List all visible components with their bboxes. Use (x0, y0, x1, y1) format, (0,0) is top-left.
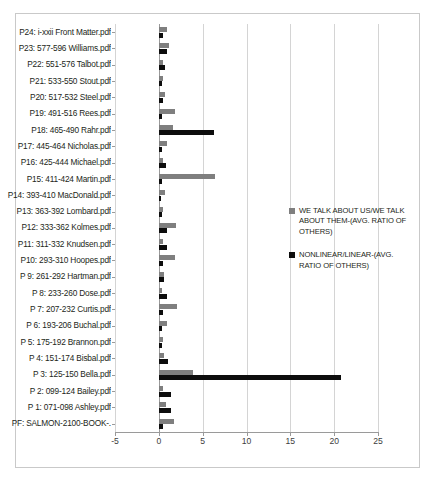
bar (159, 27, 167, 32)
bar (159, 92, 165, 97)
bar (159, 424, 163, 429)
x-tick-label: 25 (373, 436, 383, 447)
legend-swatch-icon (289, 252, 295, 258)
bar (159, 353, 164, 358)
y-axis-category-label: P11: 311-332 Knudsen.pdf (0, 240, 111, 249)
y-axis-category-label: P13: 363-392 Lombard.pdf (0, 207, 111, 216)
x-tick-mark (203, 432, 204, 436)
y-axis-category-label: P15: 411-424 Martin.pdf (0, 175, 111, 184)
y-axis-category-row: P 1: 071-098 Ashley.pdf (0, 399, 111, 415)
bar (159, 375, 341, 380)
y-axis-category-label: P 9: 261-292 Hartman.pdf (0, 272, 111, 281)
y-axis-category-label: P12: 333-362 Kolmes.pdf (0, 223, 111, 232)
y-axis-category-row: P 5: 175-192 Brannon.pdf (0, 334, 111, 350)
y-axis-category-label: P21: 533-550 Stout.pdf (0, 77, 111, 86)
y-axis-category-labels: P24: i-xxii Front Matter.pdfP23: 577-596… (0, 24, 113, 432)
bar-group (115, 155, 378, 171)
y-axis-category-row: P15: 411-424 Martin.pdf (0, 171, 111, 187)
y-axis-category-row: P 4: 151-174 Bisbal.pdf (0, 350, 111, 366)
bar (159, 109, 176, 114)
y-axis-category-label: P22: 551-576 Talbot.pdf (0, 60, 111, 69)
y-axis-category-label: P24: i-xxii Front Matter.pdf (0, 28, 111, 37)
x-tick-mark (159, 432, 160, 436)
x-axis-tick-labels: -50510152025 (115, 436, 378, 450)
bar-group (115, 57, 378, 73)
bar (159, 272, 164, 277)
y-axis-category-row: P16: 425-444 Michael.pdf (0, 155, 111, 171)
bar (159, 392, 171, 397)
bar (159, 190, 165, 195)
x-tick-mark (334, 432, 335, 436)
bar-group (115, 171, 378, 187)
bar-group (115, 122, 378, 138)
bar (159, 408, 171, 413)
bar (159, 321, 167, 326)
y-axis-category-label: P17: 445-464 Nicholas.pdf (0, 142, 111, 151)
bar-group (115, 106, 378, 122)
bar (159, 239, 163, 244)
y-axis-category-row: P24: i-xxii Front Matter.pdf (0, 24, 111, 40)
bar (159, 130, 214, 135)
y-axis-category-row: P17: 445-464 Nicholas.pdf (0, 138, 111, 154)
bar (159, 277, 164, 282)
x-tick-mark (290, 432, 291, 436)
y-axis-category-label: P10: 293-310 Hoopes.pdf (0, 256, 111, 265)
y-axis-category-row: P14: 393-410 MacDonald.pdf (0, 187, 111, 203)
bar-group (115, 138, 378, 154)
y-axis-category-row: P 7: 207-232 Curtis.pdf (0, 301, 111, 317)
y-axis-category-row: P 3: 125-150 Bella.pdf (0, 367, 111, 383)
y-axis-category-row: P22: 551-576 Talbot.pdf (0, 57, 111, 73)
bar (159, 114, 163, 119)
bar (159, 310, 163, 315)
y-axis-category-label: P 4: 151-174 Bisbal.pdf (0, 354, 111, 363)
bar-group (115, 399, 378, 415)
y-axis-category-row: P12: 333-362 Kolmes.pdf (0, 220, 111, 236)
bar (159, 212, 163, 217)
legend-label: WE TALK ABOUT US/WE TALK ABOUT THEM-(AVG… (299, 206, 415, 237)
bar (159, 337, 163, 342)
bar (159, 370, 193, 375)
bar (159, 76, 163, 81)
bar (159, 304, 177, 309)
bar (159, 125, 173, 130)
y-axis-category-row: PF: SALMON-2100-BOOK-. (0, 416, 111, 432)
bar-group (115, 383, 378, 399)
bar-group (115, 285, 378, 301)
bar-group (115, 350, 378, 366)
bar (159, 359, 169, 364)
x-tick-label: 15 (286, 436, 296, 447)
chart-legend: WE TALK ABOUT US/WE TALK ABOUT THEM-(AVG… (289, 206, 415, 284)
x-tick-label: 5 (200, 436, 205, 447)
chart-frame: P24: i-xxii Front Matter.pdfP23: 577-596… (15, 13, 420, 468)
bar (159, 255, 176, 260)
y-axis-category-row: P23: 577-596 Williams.pdf (0, 40, 111, 56)
bar (159, 294, 167, 299)
bar (159, 223, 177, 228)
bar (159, 261, 163, 266)
y-axis-category-row: P21: 533-550 Stout.pdf (0, 73, 111, 89)
bar (159, 60, 163, 65)
bar-group (115, 73, 378, 89)
x-tick-label: 0 (156, 436, 161, 447)
bar (159, 49, 167, 54)
y-axis-category-row: P20: 517-532 Steel.pdf (0, 89, 111, 105)
bar (159, 141, 167, 146)
legend-entry: WE TALK ABOUT US/WE TALK ABOUT THEM-(AVG… (289, 206, 415, 237)
bar (159, 163, 166, 168)
y-axis-category-row: P 8: 233-260 Dose.pdf (0, 285, 111, 301)
y-axis-category-label: P20: 517-532 Steel.pdf (0, 93, 111, 102)
y-axis-category-row: P 9: 261-292 Hartman.pdf (0, 269, 111, 285)
x-tick-mark (378, 432, 379, 436)
y-axis-category-row: P18: 465-490 Rahr.pdf (0, 122, 111, 138)
bar (159, 288, 163, 293)
bar (159, 326, 163, 331)
bar (159, 147, 163, 152)
y-axis-category-label: P 8: 233-260 Dose.pdf (0, 289, 111, 298)
y-axis-category-row: P13: 363-392 Lombard.pdf (0, 204, 111, 220)
legend-swatch-icon (289, 208, 295, 214)
y-axis-category-label: P 1: 071-098 Ashley.pdf (0, 403, 111, 412)
y-axis-category-label: P 6: 193-206 Buchal.pdf (0, 321, 111, 330)
bar (159, 386, 163, 391)
y-axis-category-row: P11: 311-332 Knudsen.pdf (0, 236, 111, 252)
bar (159, 196, 162, 201)
